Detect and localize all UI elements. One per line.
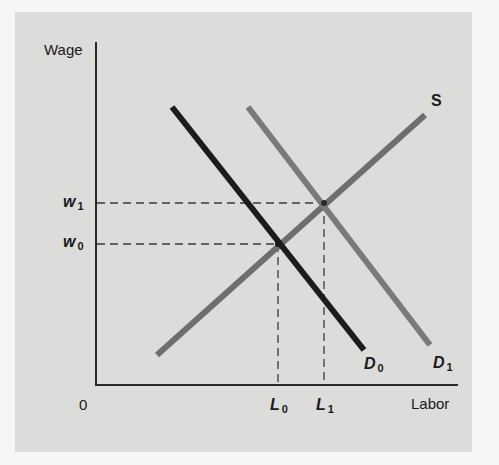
d1-label-main: D xyxy=(433,354,445,371)
x-axis-label: Labor xyxy=(411,395,449,412)
d0-label: D0 xyxy=(364,355,384,374)
equilibrium-point-0 xyxy=(275,241,281,247)
demand-curve-d1 xyxy=(248,107,430,345)
d0-label-main: D xyxy=(364,355,376,372)
w1-label: w1 xyxy=(63,193,84,212)
equilibrium-point-1 xyxy=(321,200,327,206)
l0-label-sub: 0 xyxy=(282,403,288,415)
supply-curve xyxy=(157,115,425,355)
d1-label-sub: 1 xyxy=(447,361,453,373)
equilibrium-guides xyxy=(97,203,324,384)
w0-label: w0 xyxy=(63,233,84,252)
w1-label-main: w xyxy=(63,193,75,210)
origin-label: 0 xyxy=(79,396,87,413)
l0-label-main: L xyxy=(270,396,280,413)
w0-label-sub: 0 xyxy=(77,240,83,252)
l1-label-main: L xyxy=(316,396,326,413)
supply-label: S xyxy=(431,92,442,110)
l1-label-sub: 1 xyxy=(328,403,334,415)
d0-label-sub: 0 xyxy=(378,362,384,374)
w0-label-main: w xyxy=(63,233,75,250)
y-axis-label: Wage xyxy=(44,41,83,58)
d1-label: D1 xyxy=(433,354,453,373)
l1-label: L1 xyxy=(316,396,334,415)
l0-label: L0 xyxy=(270,396,288,415)
w1-label-sub: 1 xyxy=(77,200,83,212)
